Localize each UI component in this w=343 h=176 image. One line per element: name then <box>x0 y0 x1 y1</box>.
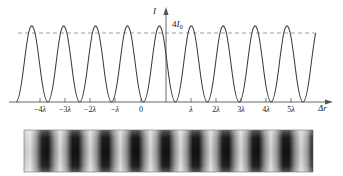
x-axis-label: Δr <box>318 104 327 113</box>
tick-label-4-lambda: 4λ <box>262 106 269 114</box>
tick-label-zero: 0 <box>139 106 143 114</box>
tick-label-lambda: λ <box>189 106 192 114</box>
interference-intensity-figure: I 4I0 Δr −4λ −3λ −2λ −λ 0 λ 2λ 3λ 4λ 5λ <box>0 0 343 176</box>
fringe-pattern-strip <box>24 130 313 172</box>
tick-label-2-lambda: 2λ <box>212 106 219 114</box>
tick-label-minus-lambda: −λ <box>111 106 119 114</box>
tick-label-minus-3-lambda: −3λ <box>59 106 71 114</box>
tick-label-3-lambda: 3λ <box>237 106 244 114</box>
y-axis-label: I <box>153 7 156 16</box>
tick-label-5-lambda: 5λ <box>287 106 294 114</box>
y-axis-arrowhead <box>163 7 168 15</box>
tick-label-minus-4-lambda: −4λ <box>34 106 46 114</box>
tick-label-minus-2-lambda: −2λ <box>84 106 96 114</box>
max-intensity-label: 4I0 <box>172 20 183 30</box>
